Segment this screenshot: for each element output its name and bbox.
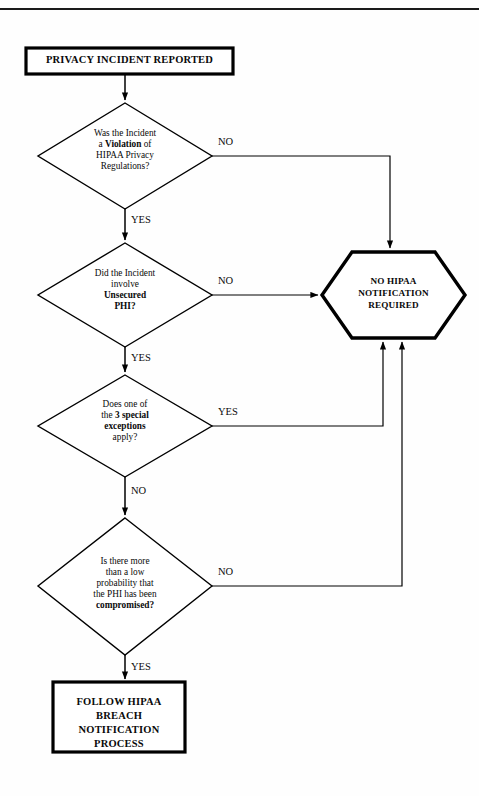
decision3-line3-bold: exceptions <box>104 421 145 431</box>
edge-label-decision2-no: NO <box>218 275 233 286</box>
decision1-line1: Was the Incident <box>45 128 205 139</box>
decision3-line3: exceptions <box>45 421 205 432</box>
edge-label-decision2-yes: YES <box>131 352 151 363</box>
edge-label-decision4-no: NO <box>218 566 233 577</box>
decision2-line3-bold: Unsecured <box>104 290 146 300</box>
edge-label-decision1-yes: YES <box>131 214 151 225</box>
decision1-label: Was the Incident a Violation of HIPAA Pr… <box>45 128 205 172</box>
decision1-line3: HIPAA Privacy <box>45 150 205 161</box>
decision4-line5-bold: compromised? <box>96 600 154 610</box>
decision3-line4: apply? <box>45 432 205 443</box>
decision2-line2: involve <box>45 279 205 290</box>
decision1-line2-post: of <box>141 139 151 149</box>
follow-process-line4: PROCESS <box>53 737 185 751</box>
decision4-line4: the PHI has been <box>40 589 210 600</box>
edge-label-decision3-yes: YES <box>218 406 238 417</box>
decision3-line2-pre: the <box>101 410 115 420</box>
edge-label-decision1-no: NO <box>218 136 233 147</box>
no-notification-hexagon-label: NO HIPAA NOTIFICATION REQUIRED <box>322 276 465 312</box>
decision4-line1: Is there more <box>40 556 210 567</box>
edge-label-decision3-no: NO <box>131 485 146 496</box>
hexagon-line3: REQUIRED <box>322 300 465 312</box>
follow-process-line2: BREACH <box>53 709 185 723</box>
decision2-label: Did the Incident involve Unsecured PHI? <box>45 268 205 312</box>
decision2-line3: Unsecured <box>45 290 205 301</box>
decision4-line3: probability that <box>40 578 210 589</box>
decision2-line1: Did the Incident <box>45 268 205 279</box>
edge-decision1-no <box>212 156 390 248</box>
flowchart-canvas <box>0 0 479 796</box>
decision3-label: Does one of the 3 special exceptions app… <box>45 399 205 443</box>
decision3-line2-bold: 3 special <box>115 410 149 420</box>
follow-process-line1: FOLLOW HIPAA <box>53 695 185 709</box>
decision2-line4: PHI? <box>45 301 205 312</box>
decision4-line2: than a low <box>40 567 210 578</box>
follow-process-terminator-label: FOLLOW HIPAA BREACH NOTIFICATION PROCESS <box>53 695 185 750</box>
decision1-line2: a Violation of <box>45 139 205 150</box>
hexagon-line2: NOTIFICATION <box>322 288 465 300</box>
decision1-line2-bold: Violation <box>105 139 141 149</box>
follow-process-line3: NOTIFICATION <box>53 723 185 737</box>
flowchart-page: PRIVACY INCIDENT REPORTED Was the Incide… <box>0 0 479 796</box>
decision3-line2: the 3 special <box>45 410 205 421</box>
edge-decision4-no <box>212 342 402 586</box>
decision2-line4-bold: PHI? <box>114 301 135 311</box>
hexagon-line1: NO HIPAA <box>322 276 465 288</box>
start-terminator-label: PRIVACY INCIDENT REPORTED <box>26 54 233 66</box>
decision3-line1: Does one of <box>45 399 205 410</box>
edge-label-decision4-yes: YES <box>131 661 151 672</box>
decision4-line5: compromised? <box>40 600 210 611</box>
decision1-line4: Regulations? <box>45 161 205 172</box>
decision4-label: Is there more than a low probability tha… <box>40 556 210 611</box>
